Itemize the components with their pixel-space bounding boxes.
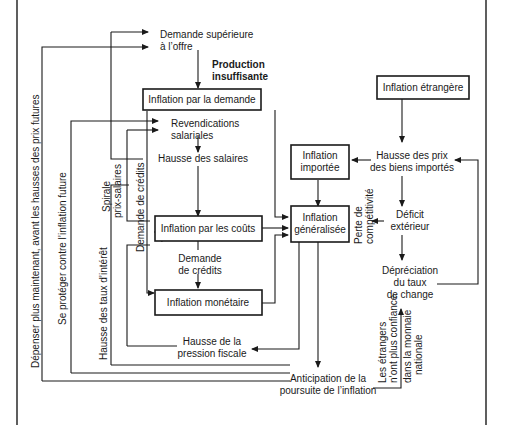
vlabel-etrangers-4: nationale [413, 334, 424, 375]
label-anticipation-1: Anticipation de la [290, 373, 367, 384]
vlabel-perte-2: compétitivité [364, 188, 375, 244]
label-credits-1: Demande [178, 253, 222, 264]
label-fiscale-1: Hausse de la [183, 336, 242, 347]
vlabel-spirale-1: Spirale [101, 180, 112, 212]
label-demande-sup-1: Demande supérieure [160, 29, 254, 40]
inflation-diagram: Demande supérieure à l’offre Production … [0, 0, 507, 425]
label-production-1: Production [212, 59, 265, 70]
vlabel-se-proteger: Se protéger contre l’inflation future [57, 172, 68, 325]
label-depreciation-2: du taux [394, 277, 427, 288]
label-inflation-monetaire: Inflation monétaire [167, 297, 250, 308]
label-importee-2: importée [301, 162, 340, 173]
label-production-2: insuffisante [212, 71, 269, 82]
vlabel-spirale-2: prix-salaires [112, 164, 123, 218]
vlabel-etrangers-3: dans la monnaie [402, 309, 413, 383]
label-demande-sup-2: à l’offre [160, 41, 193, 52]
label-deficit-2: extérieur [391, 221, 431, 232]
label-importee-1: Inflation [302, 150, 337, 161]
vlabel-etrangers-2: n’ont plus confiance [388, 294, 399, 383]
vlabel-depenser: Dépenser plus maintenant, avant les haus… [30, 95, 41, 369]
edge-monetaire-generalisee [262, 235, 288, 303]
label-generalisee-2: généralisée [294, 224, 346, 235]
vlabel-hausse-taux: Hausse des taux d’intérêt [98, 247, 109, 360]
label-prix-importes-1: Hausse des prix [376, 150, 448, 161]
vlabel-etrangers-1: Les étrangers [377, 322, 388, 383]
label-revend-1: Revendications [171, 118, 239, 129]
edge-depreciation-prix [437, 160, 478, 284]
label-prix-importes-2: des biens importés [370, 162, 454, 173]
label-revend-2: salariales [171, 130, 213, 141]
label-anticipation-2: poursuite de l’inflation [280, 385, 377, 396]
label-inflation-etrangere: Inflation étrangère [383, 82, 464, 93]
label-credits-2: de crédits [178, 265, 221, 276]
label-generalisee-1: Inflation [302, 212, 337, 223]
label-fiscale-2: pression fiscale [178, 348, 247, 359]
label-depreciation-1: Dépréciation [382, 265, 438, 276]
vlabel-demande-credits: Demande de crédits [135, 163, 146, 253]
label-deficit-1: Déficit [396, 209, 424, 220]
label-hausse-salaires: Hausse des salaires [158, 153, 248, 164]
edge-demande-credits [147, 111, 154, 293]
edge-demande-generalisee [275, 110, 288, 217]
label-inflation-demande: Inflation par la demande [148, 94, 256, 105]
vlabel-perte-1: Perte de [353, 206, 364, 244]
label-inflation-couts: Inflation par les coûts [161, 223, 256, 234]
